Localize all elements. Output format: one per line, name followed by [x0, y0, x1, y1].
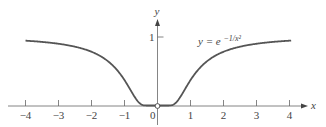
x-tick-label: 4 — [287, 109, 293, 121]
axes: x y — [8, 5, 316, 125]
x-tick-label: 0 — [150, 109, 156, 121]
series-line — [26, 41, 292, 106]
x-ticks: −4−3−2−101234 — [20, 100, 293, 121]
y-ticks: 1 — [149, 31, 164, 43]
x-tick-label: −4 — [20, 109, 32, 121]
x-axis-arrow-icon — [301, 104, 308, 109]
y-axis-arrow-icon — [155, 19, 160, 26]
y-axis-label: y — [154, 5, 160, 17]
x-axis-label: x — [310, 99, 316, 111]
x-tick-label: −3 — [53, 109, 65, 121]
annotation-main: y = e — [197, 35, 221, 47]
x-tick-label: 2 — [221, 109, 227, 121]
y-tick-label: 1 — [149, 31, 155, 43]
x-tick-label: 3 — [254, 109, 260, 121]
x-tick-label: 1 — [188, 109, 194, 121]
function-plot: x y −4−3−2−101234 1 y = e −1/x² — [0, 0, 326, 127]
x-tick-label: −1 — [119, 109, 131, 121]
function-annotation: y = e −1/x² — [197, 34, 242, 47]
open-circle-marker — [155, 104, 160, 109]
annotation-superscript: −1/x² — [223, 34, 241, 43]
x-tick-label: −2 — [86, 109, 98, 121]
